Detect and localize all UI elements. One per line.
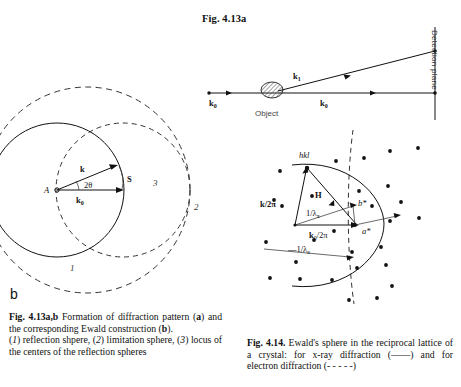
origin-point bbox=[293, 223, 296, 226]
label-H: H bbox=[315, 190, 322, 200]
fig-4.13b-diagram: A k k0 2θ S 1 2 3 bbox=[0, 98, 232, 303]
incident-beam-arrowhead bbox=[226, 90, 232, 95]
label-2theta: 2θ bbox=[84, 180, 92, 190]
caption-413-item-2: ) limitation sphere, ( bbox=[101, 334, 180, 345]
hkl-point bbox=[305, 166, 309, 170]
fig-4.13a-diagram: k0 k1 k0 Object bbox=[200, 24, 461, 120]
source-point bbox=[207, 91, 210, 94]
electron-diffraction-sphere bbox=[348, 130, 354, 304]
caption-413-item-1: ) reflection shpere, ( bbox=[17, 334, 96, 345]
vector-H-arrowhead bbox=[329, 200, 335, 206]
panel-b-letter: b bbox=[10, 286, 18, 302]
label-k1: k1 bbox=[293, 71, 301, 82]
label-k: k bbox=[80, 164, 85, 174]
label-object: Object bbox=[255, 109, 279, 118]
fig-4.14-diagram: hkl H k/2π k0/2π 1/λx —1/λe a* b* bbox=[252, 128, 461, 308]
label-k-over-2pi: k/2π bbox=[260, 199, 276, 209]
label-k0-transmitted: k0 bbox=[320, 98, 328, 109]
vector-k0-arrowhead bbox=[116, 187, 124, 193]
fig-4.14-caption: Fig. 4.14. Ewald's sphere in the recipro… bbox=[247, 337, 453, 372]
caption-413-label: Fig. 4.13a,b bbox=[9, 311, 58, 322]
diffracted-beam bbox=[278, 51, 435, 91]
caption-413-text-3: ). bbox=[167, 323, 173, 334]
radius-lambda-x-line bbox=[295, 206, 353, 225]
diffracted-beam-arrowhead bbox=[344, 75, 352, 80]
label-circle-1: 1 bbox=[70, 263, 75, 273]
label-circle-2: 2 bbox=[194, 202, 199, 212]
label-A: A bbox=[43, 185, 50, 195]
vector-k-2pi-line bbox=[295, 171, 306, 225]
label-hkl: hkl bbox=[299, 150, 310, 160]
sphere-contact-point bbox=[353, 223, 357, 227]
fig-4.13a-title: Fig. 4.13a bbox=[202, 13, 246, 24]
direct-spot bbox=[433, 91, 437, 95]
vector-k-arrowhead bbox=[109, 164, 118, 170]
caption-414-label: Fig. 4.14. bbox=[247, 337, 285, 348]
label-a-star: a* bbox=[362, 226, 371, 236]
lambda-e-arrowhead bbox=[346, 255, 354, 260]
object-shape bbox=[261, 82, 283, 98]
label-1-over-lambda-x: 1/λx bbox=[306, 208, 320, 219]
label-S: S bbox=[127, 174, 132, 184]
caption-413-text-1: Formation of diffraction pattern ( bbox=[58, 311, 196, 322]
transmitted-beam-arrowhead bbox=[370, 90, 376, 95]
label-k0: k0 bbox=[76, 195, 84, 206]
label-k0-over-2pi: k0/2π bbox=[309, 230, 328, 241]
label-1-over-lambda-e: —1/λe bbox=[287, 244, 310, 255]
label-detection-plane: Detection plane bbox=[430, 30, 439, 90]
angle-arc bbox=[76, 181, 79, 190]
label-b-star: b* bbox=[358, 198, 367, 208]
a-star-arrowhead bbox=[394, 213, 401, 218]
label-circle-3: 3 bbox=[152, 178, 158, 188]
fig-4.13-caption: Fig. 4.13a,b Formation of diffraction pa… bbox=[9, 311, 222, 357]
